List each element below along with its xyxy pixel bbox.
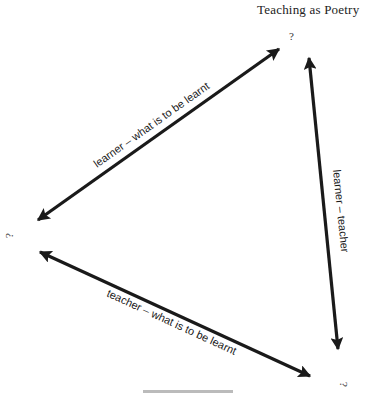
triangle-diagram: learner – what is to be learnt learner –… xyxy=(0,0,373,393)
node-top-question-mark: ? xyxy=(289,30,294,42)
edge-label-teacher-what-is-to-be-learnt: teacher – what is to be learnt xyxy=(105,287,238,357)
edge-label-learner-teacher: learner – teacher xyxy=(331,169,351,253)
node-left-question-mark: ? xyxy=(3,233,15,238)
edge-teacher-what-is-to-be-learnt xyxy=(40,252,310,376)
edge-learner-teacher xyxy=(309,58,338,349)
edge-label-learner-what-is-to-be-learnt: learner – what is to be learnt xyxy=(91,80,211,170)
node-bottom-question-mark: ? xyxy=(338,382,350,387)
edge-learner-what-is-to-be-learnt xyxy=(38,49,279,220)
